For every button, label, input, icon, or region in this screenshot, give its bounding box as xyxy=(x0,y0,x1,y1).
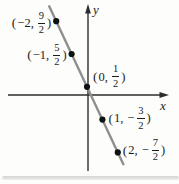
y-axis-arrow-icon xyxy=(85,4,91,14)
fraction: 12 xyxy=(112,64,119,89)
point-label: (0,12) xyxy=(93,66,125,88)
data-point-dot xyxy=(53,18,59,24)
data-point-dot xyxy=(99,117,105,123)
fraction: 92 xyxy=(38,11,45,36)
x-axis-label: x xyxy=(160,99,166,112)
point-label: (−2,92) xyxy=(12,12,51,34)
fraction: 32 xyxy=(137,106,144,131)
y-axis-label: y xyxy=(93,3,99,16)
data-point-dot xyxy=(84,84,90,90)
page-edge-shadow xyxy=(2,176,179,180)
fraction: 72 xyxy=(152,138,159,163)
line-graph-figure: y x (−2,92)(−1,52)(0,12)(1,−32)(2,−72) xyxy=(0,0,179,184)
point-label: (2,−72) xyxy=(123,139,165,161)
data-point-dot xyxy=(115,149,121,155)
point-label: (1,−32) xyxy=(108,108,150,130)
point-label: (−1,52) xyxy=(27,44,66,66)
data-point-dot xyxy=(69,51,75,57)
fraction: 52 xyxy=(53,43,60,68)
